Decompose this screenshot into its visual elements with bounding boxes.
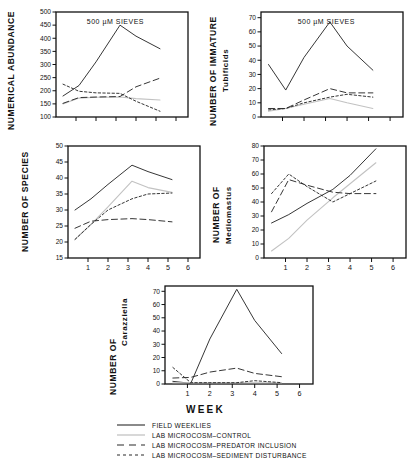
svg-text:1: 1	[284, 263, 288, 272]
svg-text:200: 200	[40, 87, 51, 94]
svg-text:30: 30	[153, 341, 161, 348]
svg-text:450: 450	[40, 21, 51, 28]
svg-text:5: 5	[166, 263, 170, 272]
legend-label: FIELD WEEKLIES	[152, 422, 211, 429]
svg-text:300: 300	[40, 61, 51, 68]
svg-text:10: 10	[153, 367, 161, 374]
panel-2-plot: 010203040506070500 µM SIEVES	[231, 2, 416, 142]
svg-text:20: 20	[153, 354, 161, 361]
svg-text:4: 4	[146, 263, 150, 272]
svg-text:2: 2	[106, 263, 110, 272]
legend-label: LAB MICROCOSM–SEDIMENT DISTURBANCE	[152, 452, 307, 459]
svg-text:70: 70	[252, 156, 260, 163]
panel-5-ylabel-line1: NUMBER OF	[108, 330, 119, 404]
svg-text:3: 3	[230, 389, 234, 398]
panel-5-plot: 010203040506070123456	[131, 278, 326, 400]
svg-text:0: 0	[255, 254, 259, 261]
svg-text:10: 10	[252, 240, 260, 247]
panel-4-ylabel-line1: NUMBER OF	[211, 178, 222, 252]
legend-item: LAB MICROCOSM–CONTROL	[116, 430, 307, 440]
svg-text:40: 40	[153, 327, 161, 334]
svg-text:5: 5	[370, 263, 374, 272]
svg-text:40: 40	[249, 57, 257, 64]
svg-text:25: 25	[56, 222, 64, 229]
svg-text:500 µM SIEVES: 500 µM SIEVES	[298, 18, 355, 26]
svg-text:10: 10	[249, 99, 257, 106]
svg-text:60: 60	[252, 170, 260, 177]
panel-1-ylabel: NUMERICAL ABUNDANCE	[6, 6, 17, 134]
svg-text:3: 3	[327, 263, 331, 272]
svg-text:6: 6	[186, 263, 190, 272]
svg-text:20: 20	[249, 85, 257, 92]
legend-item: LAB MICROCOSM–PREDATOR INCLUSION	[116, 440, 307, 450]
svg-text:60: 60	[153, 301, 161, 308]
svg-text:4: 4	[348, 263, 352, 272]
panel-4-plot: 01020304050607080123456	[234, 138, 417, 280]
svg-text:1: 1	[185, 389, 189, 398]
svg-text:1: 1	[86, 263, 90, 272]
svg-text:50: 50	[153, 314, 161, 321]
svg-text:6: 6	[391, 263, 395, 272]
svg-text:50: 50	[56, 142, 64, 149]
legend-swatch-field-weeklies	[116, 421, 146, 429]
svg-text:70: 70	[153, 288, 161, 295]
svg-text:70: 70	[249, 14, 257, 21]
svg-text:45: 45	[56, 158, 64, 165]
svg-text:4: 4	[253, 389, 257, 398]
legend-item: LAB MICROCOSM–SEDIMENT DISTURBANCE	[116, 450, 307, 460]
svg-text:0: 0	[156, 380, 160, 387]
svg-text:40: 40	[252, 198, 260, 205]
panel-2-ylabel-line1: NUMBER OF IMMATURE	[208, 8, 219, 134]
panel-2-ylabel-line2: Tubificids	[220, 30, 231, 110]
svg-text:30: 30	[56, 206, 64, 213]
panel-4-ylabel-line2: Mediomastus	[223, 172, 234, 258]
svg-text:30: 30	[249, 71, 257, 78]
legend-swatch-control	[116, 431, 146, 439]
svg-text:0: 0	[252, 113, 256, 120]
svg-text:2: 2	[305, 263, 309, 272]
svg-text:15: 15	[56, 254, 64, 261]
svg-text:6: 6	[298, 389, 302, 398]
svg-text:400: 400	[40, 35, 51, 42]
svg-text:20: 20	[56, 238, 64, 245]
svg-text:60: 60	[249, 28, 257, 35]
legend-label: LAB MICROCOSM–CONTROL	[152, 432, 251, 439]
svg-text:150: 150	[40, 100, 51, 107]
svg-text:20: 20	[252, 226, 260, 233]
x-axis-label: WEEK	[186, 404, 225, 415]
svg-text:3: 3	[126, 263, 130, 272]
legend-swatch-sediment-disturbance	[116, 451, 146, 459]
panel-3-ylabel: NUMBER OF SPECIES	[20, 140, 31, 264]
legend: FIELD WEEKLIES LAB MICROCOSM–CONTROL LAB…	[116, 420, 307, 460]
panel-5-ylabel-line2: Carazziella	[119, 282, 130, 362]
svg-text:100: 100	[40, 113, 51, 120]
svg-text:500: 500	[40, 8, 51, 15]
svg-text:500 µM SIEVES: 500 µM SIEVES	[87, 18, 144, 26]
svg-text:50: 50	[249, 42, 257, 49]
svg-text:80: 80	[252, 142, 260, 149]
svg-text:40: 40	[56, 174, 64, 181]
svg-text:50: 50	[252, 184, 260, 191]
panel-3-plot: 1520253035404550123456	[34, 138, 209, 280]
svg-text:5: 5	[275, 389, 279, 398]
svg-text:35: 35	[56, 190, 64, 197]
legend-swatch-predator-inclusion	[116, 441, 146, 449]
svg-text:250: 250	[40, 74, 51, 81]
legend-label: LAB MICROCOSM–PREDATOR INCLUSION	[152, 442, 297, 449]
legend-item: FIELD WEEKLIES	[116, 420, 307, 430]
svg-text:2: 2	[208, 389, 212, 398]
svg-text:30: 30	[252, 212, 260, 219]
svg-text:350: 350	[40, 48, 51, 55]
panel-1-plot: 100150200250300350400450500500 µM SIEVES	[22, 2, 197, 142]
